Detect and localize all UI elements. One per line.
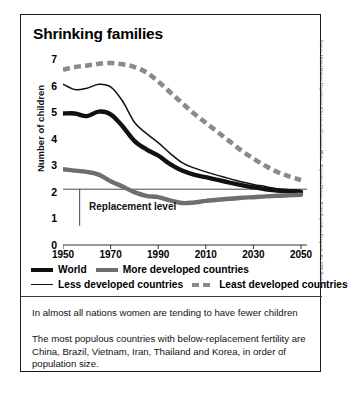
legend-swatch-less-developed — [31, 280, 53, 289]
legend-swatch-least-developed — [192, 280, 214, 289]
legend-item-least-developed[interactable]: Least developed countries — [192, 279, 348, 290]
series-line-world — [63, 112, 301, 192]
y-tick-6: 6 — [35, 80, 57, 92]
replacement-level-label: Replacement level — [89, 201, 176, 212]
legend-row-2: Less developed countries Least developed… — [31, 277, 316, 292]
caption-secondary: The most populous countries with below-r… — [32, 333, 307, 371]
legend-swatch-world — [31, 265, 53, 274]
legend-swatch-more-developed — [96, 265, 118, 274]
chart-panel: Shrinking families Number of children 01… — [20, 14, 321, 372]
source-credit: Source: United Nations Department of Soc… — [319, 40, 324, 370]
legend-label-least-developed: Least developed countries — [219, 279, 348, 290]
y-tick-2: 2 — [35, 186, 57, 198]
plot-canvas — [63, 49, 313, 259]
y-tick-3: 3 — [35, 159, 57, 171]
legend-row-1: World More developed countries — [31, 262, 316, 277]
page-title: Shrinking families — [33, 25, 163, 43]
y-tick-1: 1 — [35, 212, 57, 224]
legend-label-more-developed: More developed countries — [123, 264, 249, 275]
caption-divider — [21, 296, 322, 297]
chart-legend: World More developed countries Less deve… — [31, 262, 316, 292]
legend-item-world[interactable]: World — [31, 264, 87, 275]
y-tick-4: 4 — [35, 133, 57, 145]
legend-label-world: World — [58, 264, 87, 275]
y-tick-7: 7 — [35, 53, 57, 65]
legend-label-less-developed: Less developed countries — [58, 279, 183, 290]
fertility-line-chart: Number of children 01234567 195019701990… — [21, 49, 320, 265]
y-tick-5: 5 — [35, 106, 57, 118]
caption-primary: In almost all nations women are tending … — [32, 307, 307, 320]
legend-item-more-developed[interactable]: More developed countries — [96, 264, 249, 275]
legend-item-less-developed[interactable]: Less developed countries — [31, 279, 183, 290]
